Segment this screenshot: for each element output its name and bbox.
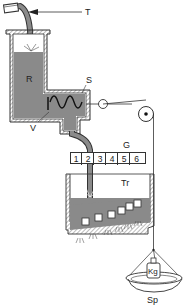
gauge-cell-4: 4	[107, 153, 118, 165]
label-S: S	[86, 76, 92, 85]
trough	[66, 174, 154, 243]
label-T: T	[85, 8, 91, 17]
gauge-cell-2: 2	[83, 153, 94, 165]
label-R: R	[26, 75, 33, 84]
label-Sp: Sp	[147, 296, 158, 305]
label-weight: Kg	[148, 268, 158, 276]
outflow-pipe	[72, 131, 90, 200]
gauge-cell-1: 1	[71, 153, 82, 165]
gauge-cell-3: 3	[95, 153, 106, 165]
gauge-scale: 1 2 3 4 5 6	[70, 152, 146, 164]
label-V: V	[30, 124, 36, 133]
gauge-cell-6: 6	[131, 153, 142, 165]
arrow-T	[28, 9, 82, 15]
label-Tr: Tr	[121, 179, 129, 188]
water-regulator-diagram: 1 2 3 4 5 6 T R S V G Tr Kg Sp	[0, 0, 188, 308]
label-G: G	[123, 141, 130, 150]
reservoir	[6, 30, 90, 134]
gauge-cell-5: 5	[119, 153, 130, 165]
